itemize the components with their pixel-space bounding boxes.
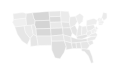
state-ne[interactable] bbox=[50, 22, 63, 28]
state-sd[interactable] bbox=[49, 16, 61, 22]
state-ok[interactable] bbox=[51, 35, 64, 41]
state-ms[interactable] bbox=[71, 43, 76, 49]
state-wy[interactable] bbox=[35, 20, 51, 29]
state-mt[interactable] bbox=[33, 11, 50, 20]
state-mn[interactable] bbox=[60, 11, 70, 22]
state-co[interactable] bbox=[36, 28, 51, 36]
choropleth-map-figure bbox=[0, 0, 126, 83]
us-map-svg bbox=[0, 0, 126, 83]
state-ia[interactable] bbox=[61, 22, 70, 28]
state-ct[interactable] bbox=[99, 23, 102, 25]
state-nd[interactable] bbox=[49, 11, 61, 17]
state-dc[interactable] bbox=[94, 32, 95, 33]
state-nm[interactable] bbox=[37, 36, 52, 46]
